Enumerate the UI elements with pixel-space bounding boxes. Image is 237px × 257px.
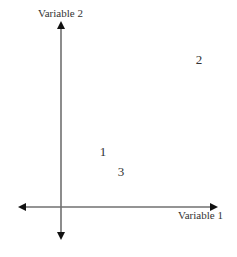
point-label-2: 2 (196, 53, 203, 66)
point-label-3: 3 (118, 165, 125, 178)
arrow-up-icon (57, 21, 65, 29)
y-axis-label: Variable 2 (38, 8, 83, 19)
arrow-left-icon (18, 203, 26, 211)
point-label-1: 1 (100, 145, 107, 158)
x-axis-label: Variable 1 (178, 210, 223, 221)
arrow-down-icon (57, 232, 65, 240)
